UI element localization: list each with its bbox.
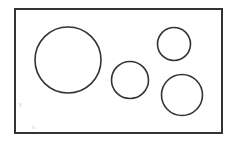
line-drawing-svg: y x [0,0,234,144]
y-axis-label: y [19,101,22,107]
bounding-rectangle [15,9,222,133]
circle-bottom-right [162,75,203,116]
circle-top-right [158,28,191,61]
circle-middle [112,62,149,99]
figure-canvas: y x [0,0,234,144]
circle-large [35,27,101,93]
x-axis-label: x [32,124,35,130]
